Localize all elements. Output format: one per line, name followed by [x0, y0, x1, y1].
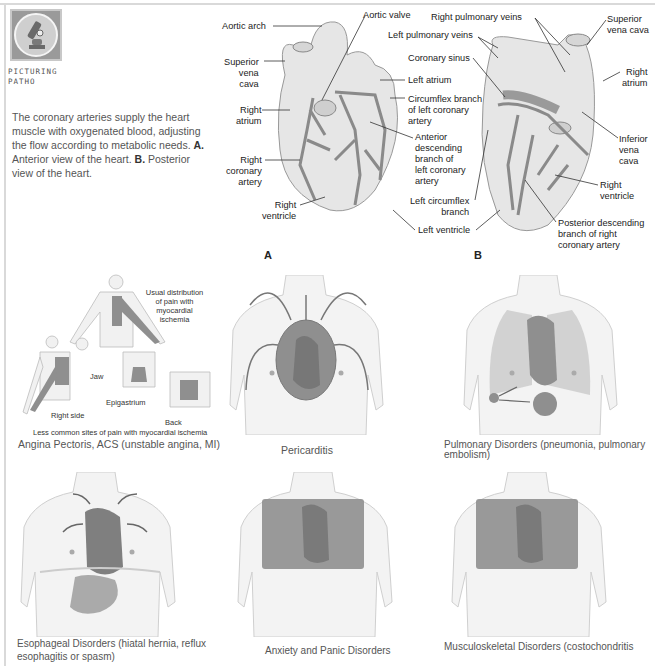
caption-esophageal: Esophageal Disorders (hiatal hernia, ref…: [17, 637, 206, 663]
caption-pericarditis: Pericarditis: [281, 445, 333, 456]
anxiety-illustration: [232, 472, 397, 637]
caption-line: esophagitis or spasm): [17, 650, 206, 663]
angina-back-label: Back: [165, 418, 182, 427]
caption-line: Esophageal Disorders (hiatal hernia, ref…: [17, 637, 206, 650]
angina-usual-label: Usual distribution of pain with myocardi…: [142, 288, 207, 324]
caption-angina: Angina Pectoris, ACS (unstable angina, M…: [18, 439, 220, 450]
angina-right-side-label: Right side: [51, 411, 84, 420]
label-line: Usual distribution: [142, 288, 207, 297]
musculoskeletal-illustration: [446, 472, 611, 637]
caption-pulmonary: Pulmonary Disorders (pneumonia, pulmonar…: [444, 440, 645, 460]
pericarditis-illustration: [228, 275, 388, 435]
label-line: of pain with: [142, 297, 207, 306]
caption-anxiety: Anxiety and Panic Disorders: [265, 645, 391, 656]
angina-epigastrium-label: Epigastrium: [106, 398, 146, 407]
pulmonary-illustration: [462, 275, 622, 435]
label-line: ischemia: [142, 315, 207, 324]
angina-less-common-label: Less common sites of pain with myocardia…: [33, 428, 207, 437]
angina-jaw-label: Jaw: [90, 372, 103, 381]
esophageal-illustration: [15, 472, 180, 637]
leader-lines: [0, 0, 655, 260]
caption-line: embolism): [444, 450, 645, 460]
label-line: myocardial: [142, 306, 207, 315]
caption-musculoskeletal: Musculoskeletal Disorders (costochondrit…: [444, 641, 634, 652]
